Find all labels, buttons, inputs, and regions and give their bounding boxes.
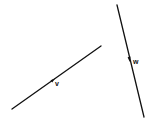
vector-v-line xyxy=(12,46,101,109)
vector-w-line xyxy=(117,5,144,117)
diagram-canvas: v w xyxy=(0,0,154,125)
vector-diagram xyxy=(0,0,154,125)
vector-v-label: v xyxy=(55,80,59,87)
vector-w-label: w xyxy=(133,58,138,65)
